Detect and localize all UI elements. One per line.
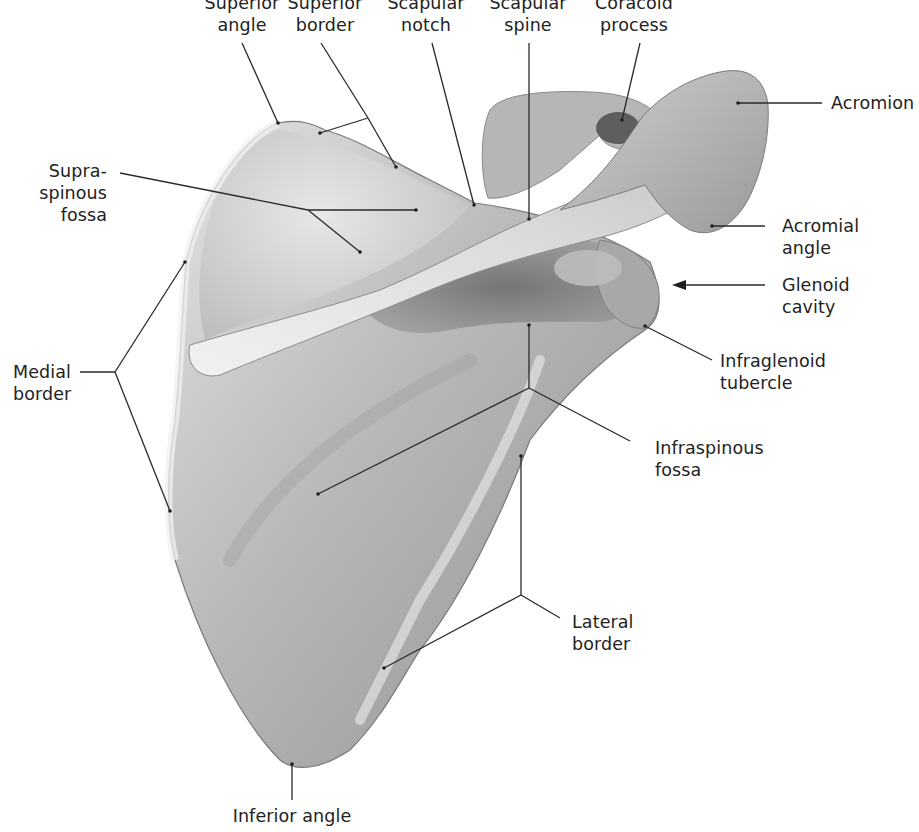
scapula-diagram: Superior angle Superior border Scapular … bbox=[0, 0, 919, 832]
label-coracoid-process: Coracoid process bbox=[595, 0, 673, 36]
label-infraglenoid-tubercle: Infraglenoid tubercle bbox=[720, 350, 826, 394]
label-acromial-angle: Acromial angle bbox=[782, 215, 859, 259]
label-lateral-border: Lateral border bbox=[572, 611, 634, 655]
scapula-illustration bbox=[0, 0, 919, 832]
label-glenoid-cavity: Glenoid cavity bbox=[782, 274, 850, 318]
label-infraspinous-fossa: Infraspinous fossa bbox=[655, 437, 764, 481]
label-inferior-angle: Inferior angle bbox=[233, 805, 352, 827]
label-acromion: Acromion bbox=[831, 92, 914, 114]
glenoid-arrow-icon bbox=[672, 280, 686, 290]
label-supraspinous-fossa: Supra- spinous fossa bbox=[39, 160, 107, 226]
label-scapular-spine: Scapular spine bbox=[489, 0, 566, 36]
label-medial-border: Medial border bbox=[13, 361, 71, 405]
label-superior-angle: Superior angle bbox=[205, 0, 280, 36]
label-scapular-notch: Scapular notch bbox=[387, 0, 464, 36]
label-superior-border: Superior border bbox=[288, 0, 363, 36]
